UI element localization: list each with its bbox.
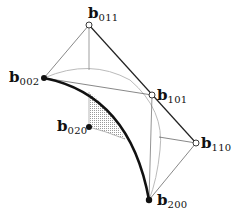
label-b200: b200 [157,193,188,210]
edge-b101-b200 [149,95,152,200]
edge-b110-inner [159,137,196,143]
label-subscript: 002 [20,76,40,87]
label-b110: b110 [201,136,232,153]
bezier-triangle-diagram [0,0,240,215]
label-b020: b020 [57,119,88,136]
label-b002: b002 [9,70,40,87]
label-base: b [201,134,212,152]
boundary-curve [44,78,149,200]
label-base: b [57,117,68,135]
label-subscript: 011 [99,12,119,23]
point-b101 [149,92,155,98]
label-base: b [9,68,20,86]
label-base: b [157,191,168,209]
label-subscript: 101 [168,94,188,105]
point-b002 [41,75,47,81]
point-b200 [146,197,152,203]
label-subscript: 200 [168,199,188,210]
label-b011: b011 [88,6,119,23]
edge-b002-b011 [44,25,89,78]
point-b110 [193,140,199,146]
label-subscript: 020 [68,125,88,136]
label-base: b [157,86,168,104]
label-base: b [88,4,99,22]
label-subscript: 110 [212,142,232,153]
edge-b002-b101 [44,78,152,95]
label-b101: b101 [157,88,188,105]
